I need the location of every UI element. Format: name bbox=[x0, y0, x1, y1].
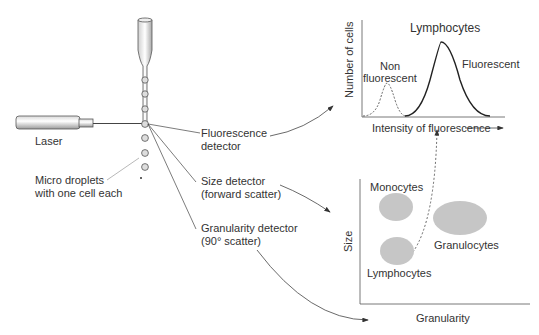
fluorescence-detector-label-1: Fluorescence bbox=[201, 127, 267, 140]
histogram-ylabel: Number of cells bbox=[343, 22, 356, 98]
fluorescent-curve bbox=[405, 42, 490, 116]
granularity-detector-label-1: Granularity detector bbox=[201, 222, 298, 235]
monocytes-label: Monocytes bbox=[370, 181, 423, 194]
lymphocytes-hist-label: Lymphocytes bbox=[410, 22, 480, 35]
laser-icon bbox=[16, 116, 144, 129]
size-detector-label-1: Size detector bbox=[201, 175, 265, 188]
nozzle-icon bbox=[138, 18, 152, 127]
monocytes-cluster bbox=[379, 193, 413, 221]
granulocytes-cluster bbox=[433, 201, 487, 235]
granulocytes-label: Granulocytes bbox=[434, 239, 499, 252]
lymphocytes-scatter-label: Lymphocytes bbox=[367, 267, 431, 280]
droplets-label-2: with one cell each bbox=[35, 187, 122, 200]
droplets-icon bbox=[107, 135, 148, 180]
size-detector-label-2: (forward scatter) bbox=[201, 188, 281, 201]
detector-rays bbox=[148, 124, 200, 229]
fluorescent-label: Fluorescent bbox=[462, 58, 519, 71]
non-fluorescent-label-2: fluorescent bbox=[363, 72, 417, 85]
scatter-ylabel: Size bbox=[342, 231, 355, 252]
lymphocytes-cluster bbox=[380, 237, 414, 265]
histogram-xlabel: Intensity of fluorescence bbox=[372, 122, 491, 135]
fluorescence-detector-label-2: detector bbox=[201, 140, 241, 153]
non-fluorescent-curve bbox=[363, 83, 406, 116]
flow-cytometry-diagram bbox=[0, 0, 539, 335]
droplets-label-1: Micro droplets bbox=[35, 174, 104, 187]
granularity-detector-label-2: (90° scatter) bbox=[201, 235, 261, 248]
scatter-xlabel: Granularity bbox=[416, 312, 470, 325]
laser-label: Laser bbox=[35, 135, 63, 148]
